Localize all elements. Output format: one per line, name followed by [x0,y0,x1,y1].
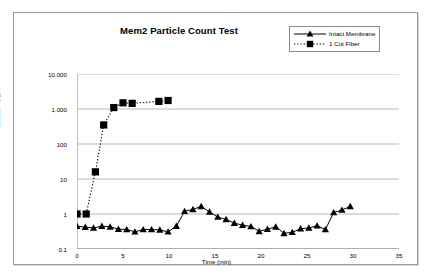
legend-label-intact-membrane: Intact Membrane [329,29,375,39]
triangle-marker [272,223,279,229]
plot-area [77,74,399,249]
triangle-marker [98,223,105,229]
triangle-marker-key [293,29,327,39]
y-axis-title: Particles >2 µm [0,88,1,131]
triangle-marker [314,222,321,228]
legend-entry-cut-fiber: 1 Cut Fiber [293,39,375,49]
triangle-marker [289,229,296,235]
triangle-marker [173,223,180,229]
plot-svg [77,74,399,249]
x-axis-title: Time (min) [14,258,419,265]
triangle-marker [206,208,213,214]
square-marker [92,168,99,175]
x-tick-label-25: 25 [295,252,319,259]
figure-frame: Mem2 Particle Count Test Intact Membrane… [13,12,418,265]
x-tick-label-20: 20 [249,252,273,259]
triangle-marker [231,219,238,225]
legend-entry-intact-membrane: Intact Membrane [293,29,375,39]
x-tick-label-10: 10 [157,252,181,259]
y-tick-label-10: 10 [27,176,67,183]
square-marker [119,99,126,106]
y-tick-label-100: 100 [27,141,67,148]
legend-label-cut-fiber: 1 Cut Fiber [329,39,360,49]
chart-legend: Intact Membrane 1 Cut Fiber [289,26,380,52]
x-tick-label-35: 35 [387,252,411,259]
square-marker [164,97,171,104]
x-tick-label-30: 30 [341,252,365,259]
square-marker [100,121,107,128]
square-marker [83,210,90,217]
x-tick-label-0: 0 [65,252,89,259]
y-tick-label-10000: 10,000 [27,71,67,78]
triangle-marker [347,203,354,209]
y-tick-label-0.1: 0.1 [27,246,67,253]
triangle-marker [77,223,81,229]
x-tick-label-5: 5 [111,252,135,259]
x-tick-label-15: 15 [203,252,227,259]
square-marker [110,104,117,111]
triangle-marker [338,206,345,212]
triangle-marker [198,203,205,209]
triangle-marker [322,226,329,232]
square-marker [77,210,81,217]
square-marker [129,100,136,107]
y-tick-label-1: 1 [27,211,67,218]
square-marker-key [293,39,327,49]
series-line-1 [77,100,168,214]
square-marker [155,98,162,105]
y-tick-label-1000: 1,000 [27,106,67,113]
